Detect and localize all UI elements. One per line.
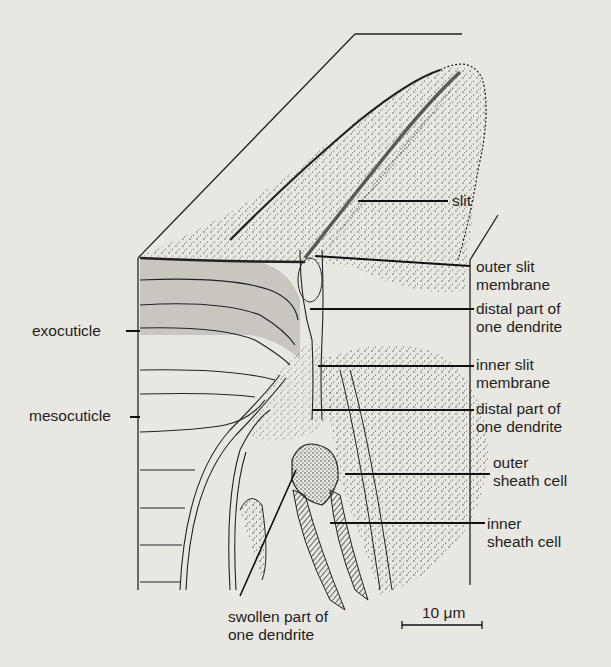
label-distal-part-2: distal part of one dendrite — [476, 400, 562, 436]
label-swollen-part: swollen part of one dendrite — [228, 608, 328, 644]
label-outer-slit-membrane: outer slit membrane — [476, 258, 550, 294]
label-mesocuticle: mesocuticle — [29, 407, 111, 425]
scale-bar — [402, 621, 482, 629]
scale-bar-label: 10 μm — [422, 604, 465, 622]
label-inner-sheath-cell: inner sheath cell — [487, 515, 561, 551]
label-exocuticle: exocuticle — [32, 322, 101, 340]
label-outer-sheath-cell: outer sheath cell — [493, 454, 567, 490]
label-slit: slit — [452, 192, 471, 210]
label-inner-slit-membrane: inner slit membrane — [476, 356, 550, 392]
exocuticle-layers — [140, 258, 305, 365]
label-distal-part-1: distal part of one dendrite — [476, 300, 562, 336]
cuticle-dome — [140, 64, 486, 292]
